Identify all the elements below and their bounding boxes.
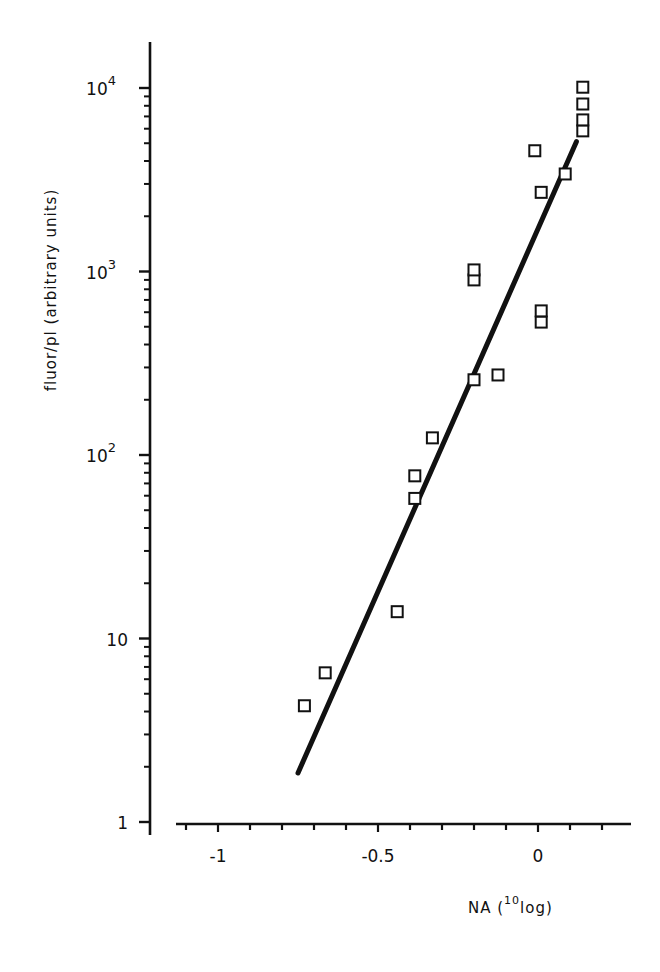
data-point-marker	[577, 82, 588, 93]
x-axis-title-main: NA (	[468, 899, 504, 917]
regression-line	[298, 142, 576, 773]
data-point-marker	[299, 700, 310, 711]
x-axis: -1-0.50	[176, 824, 631, 866]
scatter-chart: 110102103104 -1-0.50 fluor/pl (arbitrary…	[0, 0, 660, 972]
data-point-marker	[493, 369, 504, 380]
data-point-marker	[320, 667, 331, 678]
data-point-marker	[469, 264, 480, 275]
data-point-marker	[560, 168, 571, 179]
x-axis-title: NA (10log)	[468, 894, 553, 917]
data-point-marker	[577, 125, 588, 136]
data-point-marker	[536, 305, 547, 316]
data-point-marker	[577, 114, 588, 125]
y-tick-label: 104	[86, 73, 116, 99]
data-point-marker	[427, 432, 438, 443]
data-point-marker	[536, 187, 547, 198]
x-tick-label: -0.5	[361, 846, 394, 866]
y-tick-label: 10	[106, 630, 128, 650]
data-point-marker	[536, 317, 547, 328]
x-axis-title-tail: log)	[520, 899, 553, 917]
data-point-marker	[392, 606, 403, 617]
y-axis-title: fluor/pl (arbitrary units)	[42, 189, 60, 392]
y-tick-label: 102	[86, 440, 116, 466]
x-tick-label: 0	[533, 846, 544, 866]
data-point-marker	[409, 470, 420, 481]
y-axis: 110102103104	[86, 42, 150, 835]
x-axis-title-superscript: 10	[504, 894, 520, 907]
data-point-marker	[577, 99, 588, 110]
y-tick-label: 1	[117, 813, 128, 833]
data-point-marker	[409, 493, 420, 504]
data-point-marker	[529, 145, 540, 156]
data-point-marker	[469, 374, 480, 385]
y-tick-label: 103	[86, 257, 116, 283]
data-points	[299, 82, 588, 712]
x-tick-label: -1	[210, 846, 227, 866]
